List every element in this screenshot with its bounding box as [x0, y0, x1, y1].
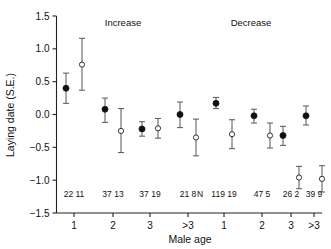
marker-filled-circle: [177, 112, 183, 118]
n-pair-label: 21 8: [180, 189, 197, 199]
data-point: [193, 119, 199, 156]
x-tick-label: 1: [71, 220, 77, 231]
data-series-layer: [63, 38, 325, 192]
x-tick-label: 1: [221, 220, 227, 231]
data-point: [118, 109, 124, 153]
marker-open-circle: [79, 62, 84, 67]
x-tick-label: 2: [259, 220, 265, 231]
marker-open-circle: [267, 133, 272, 138]
marker-filled-circle: [102, 106, 108, 112]
n-pair-label: 22 11: [64, 189, 85, 199]
y-tick-label: 1.5: [36, 11, 50, 22]
n-value-labels: 22 1137 1337 1921 8119 1947 526 239 9: [64, 189, 323, 199]
group-label-decrease: Decrease: [231, 17, 272, 28]
y-tick-label: 1.0: [36, 43, 50, 54]
marker-open-circle: [319, 176, 324, 181]
x-axis-ticks: [74, 213, 314, 217]
marker-open-circle: [193, 135, 198, 140]
n-pair-label: 26 2: [283, 189, 300, 199]
marker-filled-circle: [280, 133, 286, 139]
marker-filled-circle: [213, 100, 219, 106]
marker-open-circle: [296, 175, 301, 180]
y-tick-label: 0.5: [36, 76, 50, 87]
x-tick-label: >3: [182, 220, 194, 231]
marker-filled-circle: [63, 85, 69, 91]
y-axis-title: Laying date (S.E.): [4, 73, 16, 157]
marker-filled-circle: [251, 113, 257, 119]
data-point: [296, 166, 302, 188]
x-tick-label: 2: [110, 220, 116, 231]
marker-filled-circle: [139, 126, 145, 132]
data-point: [303, 106, 309, 125]
data-point: [177, 102, 183, 128]
n-pair-label: 47 5: [254, 189, 271, 199]
marker-open-circle: [155, 126, 160, 131]
n-row-header: N: [197, 189, 203, 199]
data-point: [213, 97, 219, 108]
data-point: [139, 122, 145, 136]
group-label-increase: Increase: [105, 17, 141, 28]
y-tick-label: −0.5: [30, 142, 50, 153]
marker-open-circle: [229, 132, 234, 137]
data-point: [267, 123, 273, 148]
x-tick-label: >3: [308, 220, 320, 231]
data-point: [102, 98, 108, 122]
n-pair-label: 37 19: [139, 189, 161, 199]
scatter-plot: −1.5−1.0−0.50.00.51.01.5 Laying date (S.…: [0, 0, 331, 249]
data-point: [63, 73, 69, 103]
marker-open-circle: [118, 128, 123, 133]
data-point: [155, 118, 161, 138]
x-axis-title: Male age: [168, 233, 211, 245]
y-tick-label: −1.0: [30, 175, 50, 186]
data-point: [280, 126, 286, 145]
data-point: [229, 120, 235, 149]
y-tick-label: −1.5: [30, 208, 50, 219]
x-axis-tick-labels: 123>3123>3: [71, 220, 320, 231]
x-tick-label: 3: [147, 220, 153, 231]
data-point: [251, 109, 257, 123]
marker-filled-circle: [303, 113, 309, 119]
n-pair-label: 37 13: [102, 189, 124, 199]
y-tick-label: 0.0: [36, 109, 50, 120]
n-pair-label: 119 19: [211, 189, 237, 199]
y-axis-tick-labels: −1.5−1.0−0.50.00.51.01.5: [30, 11, 50, 219]
data-point: [79, 38, 85, 90]
y-axis-ticks: [53, 16, 57, 213]
n-pair-label: 39 9: [306, 189, 323, 199]
chart-container: −1.5−1.0−0.50.00.51.01.5 Laying date (S.…: [0, 0, 331, 249]
x-tick-label: 3: [288, 220, 294, 231]
